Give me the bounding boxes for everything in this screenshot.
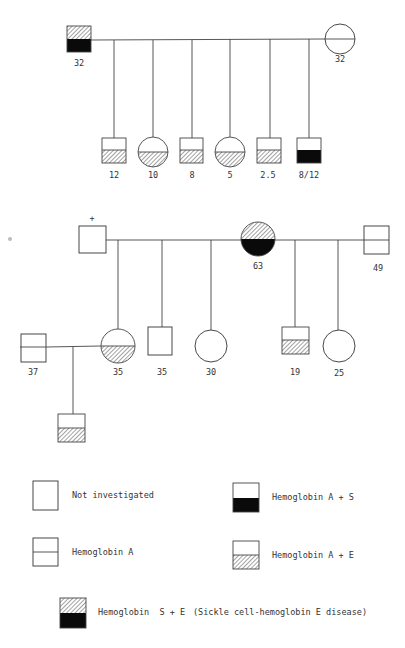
mother-2-symbol [241, 222, 275, 256]
age-label: 12 [109, 170, 119, 180]
age-label: 32 [335, 54, 345, 64]
legend-label: Hemoglobin S + E(Sickle cell-hemoglobin … [98, 607, 367, 617]
child-symbol [101, 329, 135, 363]
age-label: 35 [157, 367, 167, 377]
child-symbol [323, 330, 355, 362]
family-1: 32 32 12 10 8 [67, 24, 355, 180]
hatched-black-square-icon [60, 598, 86, 628]
age-label: 5 [227, 170, 232, 180]
child-symbol [180, 138, 203, 163]
age-label: 63 [253, 261, 263, 271]
legend-label: Hemoglobin A [72, 547, 133, 557]
half-hatched-square-icon [233, 541, 259, 569]
age-label: 19 [290, 367, 300, 377]
child-symbol [297, 138, 321, 163]
age-label: 30 [206, 367, 216, 377]
child-symbol [257, 138, 281, 163]
age-label: 49 [373, 263, 383, 273]
child-symbol [195, 330, 227, 362]
father-2-symbol [79, 226, 106, 253]
half-black-square-icon [233, 483, 259, 512]
legend-item-not-investigated: Not investigated [33, 481, 154, 510]
child-symbol [138, 137, 168, 167]
grandchild-symbol [58, 414, 85, 442]
child-symbol [282, 327, 309, 354]
family-2: + 63 49 37 35 [20, 213, 389, 442]
child-symbol [148, 327, 172, 355]
marriage-line [46, 346, 101, 347]
second-spouse-symbol [364, 226, 389, 254]
child-symbol [215, 137, 245, 167]
legend: Not investigated Hemoglobin A Hemoglobin… [33, 481, 367, 628]
age-label: 8/12 [299, 170, 319, 180]
age-label: 2.5 [260, 170, 275, 180]
legend-item-hb-as: Hemoglobin A + S [233, 483, 354, 512]
empty-square-icon [33, 481, 58, 510]
legend-label: Hemoglobin A + S [272, 492, 354, 502]
legend-label: Not investigated [72, 490, 154, 500]
deceased-mark: + [89, 213, 94, 223]
legend-item-hb-ae: Hemoglobin A + E [233, 541, 354, 569]
age-label: 10 [148, 170, 158, 180]
legend-item-hb-a: Hemoglobin A [33, 538, 133, 566]
age-label: 8 [189, 170, 194, 180]
age-label: 35 [113, 367, 123, 377]
marriage-line [91, 39, 325, 40]
scan-artifact [8, 237, 12, 241]
pedigree-chart: 32 32 12 10 8 [0, 0, 405, 648]
split-square-icon [33, 538, 58, 566]
mother-1-symbol [325, 24, 355, 54]
in-law-symbol [20, 334, 46, 362]
legend-label: Hemoglobin A + E [272, 550, 354, 560]
legend-item-hb-se: Hemoglobin S + E(Sickle cell-hemoglobin … [60, 598, 367, 628]
age-label: 32 [74, 58, 84, 68]
age-label: 25 [334, 368, 344, 378]
age-label: 37 [28, 367, 38, 377]
child-symbol [102, 138, 126, 163]
father-1-symbol [67, 26, 91, 52]
